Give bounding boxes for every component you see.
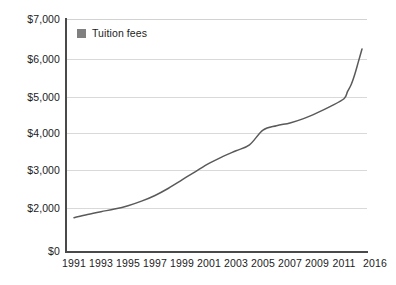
x-axis-line xyxy=(65,251,368,253)
plot-area xyxy=(66,19,367,252)
y-axis-line xyxy=(65,18,67,253)
y-tick-label: $2,000 xyxy=(0,202,60,214)
gridline-2000 xyxy=(66,208,367,209)
y-tick-label: $0 xyxy=(0,245,60,257)
gridline-7000 xyxy=(66,19,367,20)
x-tick-label: 2016 xyxy=(363,257,387,269)
legend-label-tuition-fees: Tuition fees xyxy=(92,27,147,39)
gridline-3000 xyxy=(66,170,367,171)
gridline-4000 xyxy=(66,133,367,134)
y-tick-label: $5,000 xyxy=(0,91,60,103)
x-tick-label: 1993 xyxy=(89,257,113,269)
x-tick-label: 1997 xyxy=(143,257,167,269)
gridline-6000 xyxy=(66,59,367,60)
y-tick-label: $7,000 xyxy=(0,13,60,25)
x-tick-label: 2009 xyxy=(305,257,329,269)
x-tick-label: 2007 xyxy=(278,257,302,269)
x-tick-label: 2001 xyxy=(197,257,221,269)
x-tick-label: 2011 xyxy=(333,257,356,269)
gridline-5000 xyxy=(66,97,367,98)
y-tick-label: $3,000 xyxy=(0,164,60,176)
x-tick-label: 2005 xyxy=(251,257,275,269)
x-tick-label: 1995 xyxy=(116,257,140,269)
tuition-fees-line-chart: $7,000 $6,000 $5,000 $4,000 $3,000 $2,00… xyxy=(0,0,396,285)
x-tick-label: 1991 xyxy=(62,257,86,269)
y-axis-tick-labels: $7,000 $6,000 $5,000 $4,000 $3,000 $2,00… xyxy=(0,0,60,285)
x-tick-label: 2003 xyxy=(224,257,248,269)
y-tick-label: $6,000 xyxy=(0,53,60,65)
x-tick-label: 1999 xyxy=(170,257,194,269)
legend: Tuition fees xyxy=(77,27,147,39)
legend-swatch-tuition-fees xyxy=(77,29,86,38)
y-tick-label: $4,000 xyxy=(0,127,60,139)
